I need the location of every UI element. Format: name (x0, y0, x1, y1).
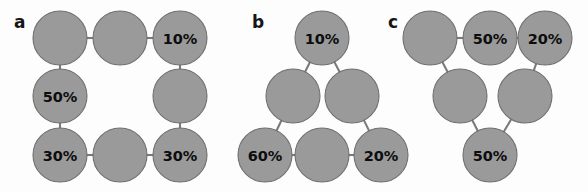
node-value-label: 30% (43, 148, 78, 164)
edge-b-b3-b6 (363, 119, 370, 132)
node-c-c5[interactable] (498, 69, 552, 123)
node-a-a6[interactable]: 30% (33, 128, 87, 182)
nodes-layer: 10%50%30%30%10%60%20%50%20%50% (33, 11, 572, 182)
edge-c-c1-c4 (442, 61, 449, 74)
node-circle[interactable] (93, 11, 147, 65)
network-diagram-svg: 10%50%30%30%10%60%20%50%20%50% abc (0, 0, 588, 192)
node-circle[interactable] (325, 69, 379, 123)
node-value-label: 50% (473, 148, 508, 164)
node-b-b6[interactable]: 20% (354, 128, 408, 182)
edge-b-b1-b2 (304, 61, 310, 73)
node-value-label: 20% (364, 148, 399, 164)
node-circle[interactable] (266, 69, 320, 123)
node-circle[interactable] (93, 128, 147, 182)
node-value-label: 50% (473, 31, 508, 47)
node-value-label: 50% (43, 89, 78, 105)
node-c-c3[interactable]: 20% (518, 11, 572, 65)
edge-b-b2-b4 (276, 119, 282, 132)
node-circle[interactable] (498, 69, 552, 123)
node-value-label: 10% (305, 31, 340, 47)
node-value-label: 60% (248, 148, 283, 164)
edge-c-c4-c6 (472, 119, 479, 133)
node-c-c2[interactable]: 50% (463, 11, 517, 65)
node-circle[interactable] (295, 128, 349, 182)
node-b-b5[interactable] (295, 128, 349, 182)
node-b-b3[interactable] (325, 69, 379, 123)
node-b-b2[interactable] (266, 69, 320, 123)
panel-label-c: c (388, 12, 398, 32)
figure-canvas: 10%50%30%30%10%60%20%50%20%50% abc (0, 0, 588, 192)
node-a-a8[interactable]: 30% (153, 128, 207, 182)
node-a-a5[interactable] (153, 69, 207, 123)
edge-c-c5-c6 (503, 118, 512, 133)
node-circle[interactable] (403, 11, 457, 65)
node-circle[interactable] (153, 69, 207, 123)
node-b-b4[interactable]: 60% (238, 128, 292, 182)
node-c-c6[interactable]: 50% (463, 128, 517, 182)
node-circle[interactable] (33, 11, 87, 65)
node-value-label: 30% (163, 148, 198, 164)
node-c-c4[interactable] (433, 69, 487, 123)
panel-label-b: b (252, 12, 264, 32)
node-a-a7[interactable] (93, 128, 147, 182)
node-b-b1[interactable]: 10% (295, 11, 349, 65)
node-circle[interactable] (433, 69, 487, 123)
node-a-a2[interactable] (93, 11, 147, 65)
node-a-a4[interactable]: 50% (33, 69, 87, 123)
node-value-label: 10% (163, 31, 198, 47)
node-value-label: 20% (528, 31, 563, 47)
node-a-a1[interactable] (33, 11, 87, 65)
node-a-a3[interactable]: 10% (153, 11, 207, 65)
panel-label-a: a (14, 12, 25, 32)
node-c-c1[interactable] (403, 11, 457, 65)
edge-b-b1-b3 (334, 61, 341, 74)
